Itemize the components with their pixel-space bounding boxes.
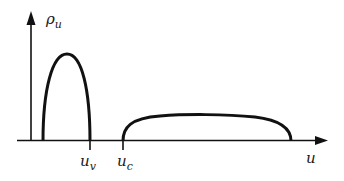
- narrow-lobe-curve: [43, 54, 90, 141]
- x-axis-arrow-icon: [315, 136, 328, 145]
- y-axis-label: ρu: [46, 12, 62, 27]
- wide-lobe-curve: [123, 115, 291, 141]
- marker-uc-label: uc: [117, 154, 133, 169]
- y-axis-arrow-icon: [27, 11, 36, 25]
- marker-uv-label: uv: [80, 154, 96, 169]
- x-axis-label: u: [306, 151, 316, 166]
